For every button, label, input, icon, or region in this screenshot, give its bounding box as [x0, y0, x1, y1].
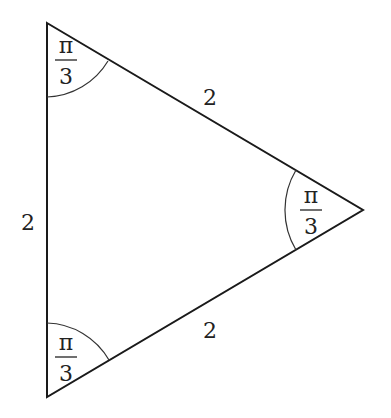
- svg-text:3: 3: [59, 361, 73, 386]
- svg-text:π: π: [304, 183, 318, 208]
- angle-label-bottom: π 3: [55, 330, 77, 386]
- svg-text:π: π: [59, 330, 73, 355]
- svg-text:3: 3: [304, 214, 318, 239]
- svg-text:π: π: [59, 33, 73, 58]
- angle-arc-bottom: [47, 323, 109, 360]
- angle-label-right: π 3: [300, 183, 322, 239]
- side-label-bottom-right: 2: [203, 318, 217, 343]
- triangle-diagram: π 3 π 3 π 3 2 2 2: [0, 0, 391, 418]
- angle-arc-right: [285, 170, 296, 250]
- svg-text:3: 3: [59, 64, 73, 89]
- angle-arc-top: [47, 61, 108, 97]
- side-label-top-right: 2: [203, 85, 217, 110]
- side-label-left: 2: [21, 210, 35, 235]
- angle-label-top: π 3: [55, 33, 77, 89]
